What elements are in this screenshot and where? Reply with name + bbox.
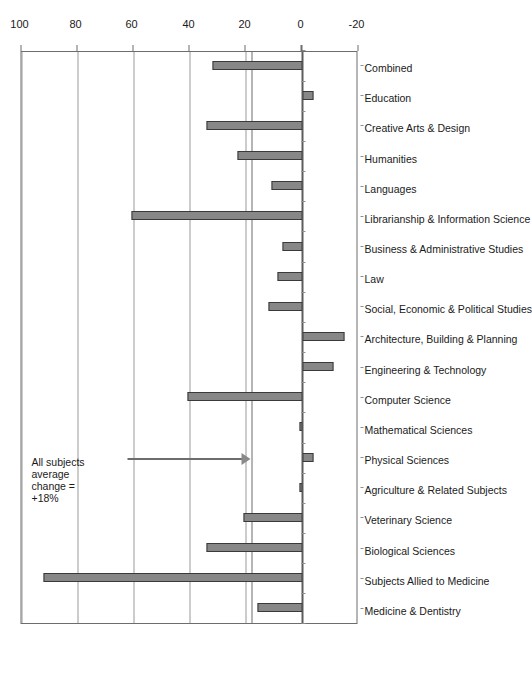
category-tick [301,261,305,262]
bar[interactable] [302,452,313,461]
bar[interactable] [243,512,302,521]
category-tickmark [361,547,364,548]
category-label: Engineering & Technology [365,363,487,375]
value-axis-tick-label: 20 [227,18,261,30]
bar[interactable] [257,603,302,612]
category-tickmark [361,246,364,247]
category-label: Humanities [365,152,418,164]
category-label: Subjects Allied to Medicine [365,574,490,586]
bar-slot [22,502,357,532]
category-tickmark [361,185,364,186]
plot-area [21,51,358,624]
category-tick [301,382,305,383]
category-tick [301,442,305,443]
bar-slot [22,200,357,230]
bar-slot [22,230,357,260]
category-tickmark [361,125,364,126]
category-tick [301,110,305,111]
category-tickmark [361,426,364,427]
bar-slot [22,291,357,321]
category-axis-labels: Medicine & DentistrySubjects Allied to M… [361,51,421,624]
category-tickmark [361,487,364,488]
annotation-line: average [32,467,85,479]
value-axis-tick--20 [357,45,358,51]
bar[interactable] [283,241,303,250]
bar-slot [22,80,357,110]
value-axis-tick-label: 0 [283,18,317,30]
bar[interactable] [207,543,302,552]
category-tickmark [361,215,364,216]
category-tickmark [361,276,364,277]
value-axis-tick-0 [301,45,302,51]
bar-slot [22,381,357,411]
bar[interactable] [300,422,303,431]
category-label: Physical Sciences [365,454,450,466]
category-tickmark [361,65,364,66]
bar[interactable] [302,362,333,371]
bar-slot [22,170,357,200]
bar-series [22,52,357,623]
bar[interactable] [44,573,302,582]
value-axis-tick-40 [189,45,190,51]
bar[interactable] [302,332,344,341]
bar-slot [22,351,357,381]
category-tick [301,291,305,292]
category-tick [301,352,305,353]
category-label: Librarianship & Information Science [365,212,531,224]
average-annotation-label: All subjectsaveragechange =+18% [32,455,85,503]
value-axis-tick-label: 40 [171,18,205,30]
category-label: Combined [365,62,413,74]
category-tickmark [361,336,364,337]
category-label: Education [365,92,412,104]
category-tick [301,533,305,534]
bar[interactable] [300,482,303,491]
bar[interactable] [277,271,302,280]
category-tickmark [361,457,364,458]
bar[interactable] [271,181,302,190]
category-tickmark [361,155,364,156]
category-label: Medicine & Dentistry [365,604,461,616]
category-tick [301,231,305,232]
value-axis-tick-60 [132,45,133,51]
bar[interactable] [212,60,302,69]
category-tick [301,80,305,81]
value-axis-tick-100 [20,45,21,51]
category-tick [301,593,305,594]
value-axis-tick-20 [245,45,246,51]
category-label: Agriculture & Related Subjects [365,484,507,496]
category-label: Computer Science [365,393,451,405]
category-tick [301,321,305,322]
bar-chart-figure: -20020406080100 Percentage Medicine & De… [9,20,424,660]
bar-slot [22,321,357,351]
bar[interactable] [187,392,302,401]
category-label: Architecture, Building & Planning [365,333,518,345]
bar-slot [22,140,357,170]
category-tickmark [361,306,364,307]
category-tick [301,140,305,141]
bar-slot [22,562,357,592]
rotated-figure-wrapper: -20020406080100 Percentage Medicine & De… [9,20,424,660]
category-tick [301,201,305,202]
category-tickmark [361,517,364,518]
value-axis-tick-label: 60 [115,18,149,30]
annotation-line: All subjects [32,455,85,467]
category-label: Veterinary Science [365,514,453,526]
value-axis-tick-80 [76,45,77,51]
bar[interactable] [269,301,303,310]
bar[interactable] [207,120,302,129]
bar[interactable] [302,90,313,99]
average-annotation-arrowhead [242,453,251,465]
annotation-line: change = [32,479,85,491]
category-tick [301,412,305,413]
value-axis-tick-label: -20 [340,18,374,30]
category-tick [301,502,305,503]
average-annotation-stem [127,458,244,459]
category-label: Biological Sciences [365,544,455,556]
bar[interactable] [238,151,303,160]
bar[interactable] [131,211,302,220]
category-tickmark [361,95,364,96]
category-label: Law [365,273,384,285]
category-tickmark [361,396,364,397]
bar-slot [22,592,357,622]
